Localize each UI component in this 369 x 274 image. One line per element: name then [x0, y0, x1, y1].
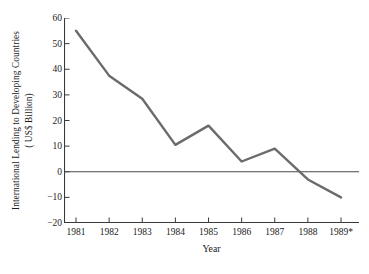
axis-tick-marks: [65, 18, 342, 223]
x-tick-label: 1987: [265, 227, 284, 237]
y-tick-label: −20: [47, 218, 62, 228]
data-series-line: [76, 31, 341, 198]
x-tick-label: 1989*: [329, 227, 353, 237]
x-tick-label: 1984: [166, 227, 185, 237]
plot-area: [64, 18, 359, 223]
y-tick-label: 10: [53, 141, 63, 151]
y-tick-label: 30: [53, 90, 63, 100]
x-tick-label: 1982: [100, 227, 119, 237]
x-axis-title: Year: [64, 243, 359, 254]
x-tick-label: 1986: [232, 227, 251, 237]
y-tick-label: 0: [57, 167, 62, 177]
chart-canvas: [64, 18, 359, 223]
y-tick-label: 20: [53, 116, 63, 126]
y-axis-tick-labels: 6050403020100−10−20: [40, 0, 62, 240]
x-tick-label: 1981: [67, 227, 86, 237]
x-tick-label: 1983: [133, 227, 152, 237]
y-axis-title-line1: International Lending to Developing Coun…: [11, 30, 24, 209]
x-tick-label: 1988: [298, 227, 317, 237]
y-tick-label: −10: [47, 192, 62, 202]
y-tick-label: 40: [53, 64, 63, 74]
y-tick-label: 50: [53, 39, 63, 49]
chart-figure: International Lending to Developing Coun…: [0, 0, 369, 274]
axis-lines: [64, 18, 359, 223]
y-tick-label: 60: [53, 13, 63, 23]
y-axis-title-line2: ( US$ Billion): [23, 30, 36, 209]
x-axis-tick-labels: 198119821983198419851986198719881989*: [64, 227, 359, 243]
x-tick-label: 1985: [199, 227, 218, 237]
